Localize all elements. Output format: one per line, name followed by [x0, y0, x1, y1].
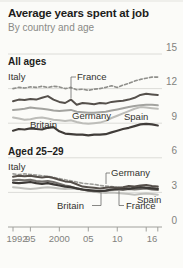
- y-axis-label-15: 15: [166, 42, 178, 53]
- x-axis-label-95: 95: [25, 233, 36, 244]
- x-axis-label-16: 16: [147, 233, 158, 244]
- chart-svg: 03691215 1992952000051016 All agesItalyF…: [0, 2, 183, 268]
- label-spain-aged-25-29: Spain: [137, 194, 161, 205]
- y-axis-label-6: 6: [171, 145, 177, 156]
- label-germany-aged-25-29: Germany: [111, 167, 150, 178]
- y-axis-label-9: 9: [171, 111, 177, 122]
- label-britain-aged-25-29-leader-line: [92, 193, 101, 206]
- label-britain-aged-25-29: Britain: [57, 200, 84, 211]
- label-germany-all-ages: Germany: [72, 110, 111, 121]
- series-line-france-all-ages: [13, 94, 158, 105]
- axis-group: 1992952000051016: [6, 227, 162, 244]
- panel-label-aged-25-29: Aged 25–29: [8, 146, 64, 157]
- label-germany-aged-25-29-leader-line: [106, 173, 110, 184]
- label-italy-all-ages: Italy: [8, 71, 26, 82]
- x-axis-label-10: 10: [112, 233, 123, 244]
- y-axis-label-0: 0: [171, 215, 177, 226]
- panel-label-all-ages: All ages: [8, 56, 47, 67]
- label-italy-aged-25-29: Italy: [8, 161, 26, 172]
- y-axis-label-3: 3: [171, 180, 177, 191]
- y-axis-label-12: 12: [166, 76, 178, 87]
- x-axis-label-05: 05: [83, 233, 94, 244]
- label-france-all-ages: France: [77, 71, 107, 82]
- label-spain-all-ages: Spain: [124, 111, 148, 122]
- x-axis-label-2000: 2000: [49, 233, 70, 244]
- label-britain-all-ages: Britain: [30, 119, 57, 130]
